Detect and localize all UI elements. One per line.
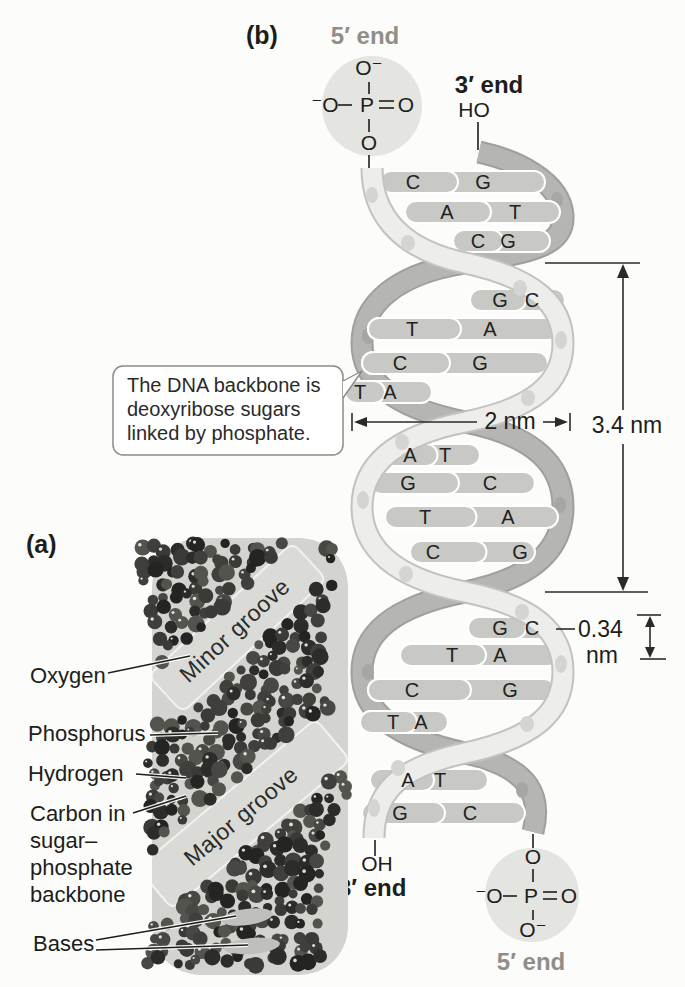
carbon-label-line4: backbone: [30, 882, 125, 907]
base-pair-row: [360, 711, 448, 733]
oxygen-atom: O: [525, 845, 541, 868]
carbon-label-line2: sugar–: [30, 828, 98, 853]
dimension-0-34nm-value: 0.34: [578, 616, 623, 642]
base-letter-left: C: [406, 171, 420, 193]
bases-label: Bases: [33, 931, 94, 956]
callout-line-1: The DNA backbone is: [127, 374, 320, 396]
base-letter-left: G: [400, 472, 416, 494]
base-letter-right: C: [525, 617, 539, 639]
phosphorus-label: Phosphorus: [28, 721, 145, 746]
base-letter-right: G: [502, 679, 518, 701]
base-pair-row: [368, 318, 560, 340]
base-letter-right: T: [439, 444, 451, 466]
base-letter-left: C: [471, 230, 485, 252]
base-letter-right: A: [493, 644, 507, 666]
base-letter-right: C: [463, 802, 477, 824]
oxygen-atom: O⁻: [519, 918, 546, 941]
base-letter-left: T: [354, 381, 366, 403]
base-pair-row: [400, 644, 560, 666]
base-letter-left: C: [426, 541, 440, 563]
base-pair-row: [380, 171, 545, 193]
textbook-dna-figure: (b) 5′ end O⁻ ⁻O P O O 3′ end HO: [0, 0, 685, 987]
base-pair-row: [370, 472, 535, 494]
bottom-five-prime-label: 5′ end: [497, 948, 565, 975]
base-letter-right: C: [483, 472, 497, 494]
oxygen-atom: O⁻: [355, 56, 382, 79]
base-letter-right: G: [472, 352, 488, 374]
dimension-3-4nm-label: 3.4 nm: [592, 412, 662, 438]
base-letter-left: A: [401, 769, 415, 791]
base-letter-left: G: [492, 617, 508, 639]
base-pair-row: [405, 201, 560, 223]
base-letter-left: C: [393, 352, 407, 374]
top-three-prime-label: 3′ end: [455, 71, 523, 98]
base-letter-left: G: [392, 802, 408, 824]
base-letter-left: T: [387, 711, 399, 733]
phosphorus-atom: P: [524, 884, 538, 907]
hydroxyl-label: HO: [458, 98, 490, 121]
panel-a-label: (a): [26, 530, 57, 558]
hydrogen-label: Hydrogen: [28, 761, 123, 786]
base-letter-left: G: [492, 289, 508, 311]
bottom-oh-label: OH: [361, 852, 393, 875]
callout-line-3: linked by phosphate.: [127, 422, 310, 444]
backbone-callout: The DNA backbone is deoxyribose sugars l…: [113, 366, 362, 455]
base-letter-right: A: [383, 381, 397, 403]
base-letter-right: C: [525, 289, 539, 311]
base-pair-row: [362, 352, 548, 374]
base-letter-right: T: [434, 769, 446, 791]
oxygen-atom: O: [561, 884, 577, 907]
base-letter-left: C: [405, 679, 419, 701]
bottom-three-prime-label: 3′ end: [338, 874, 406, 901]
oxygen-atom: O: [361, 131, 377, 154]
panel-b-label: (b): [246, 21, 278, 49]
base-letter-right: A: [501, 506, 515, 528]
callout-line-2: deoxyribose sugars: [127, 398, 300, 420]
base-pair-row: [368, 679, 555, 701]
base-letter-right: T: [509, 201, 521, 223]
oxygen-atom: ⁻O: [311, 93, 338, 116]
base-pair-row: [385, 506, 558, 528]
oxygen-atom: O: [398, 93, 414, 116]
dimension-0-34nm-unit: nm: [586, 642, 618, 668]
base-letter-right: G: [475, 171, 491, 193]
top-five-prime-label: 5′ end: [331, 22, 399, 49]
base-letter-left: T: [419, 506, 431, 528]
base-letter-left: A: [440, 201, 454, 223]
figure-canvas: (b) 5′ end O⁻ ⁻O P O O 3′ end HO: [0, 0, 685, 987]
dimension-2nm-label: 2 nm: [484, 408, 535, 434]
oxygen-label: Oxygen: [30, 663, 106, 688]
carbon-label-line3: phosphate: [30, 855, 133, 880]
oxygen-atom: ⁻O: [475, 884, 502, 907]
base-letter-right: A: [414, 711, 428, 733]
carbon-label-line1: Carbon in: [30, 801, 125, 826]
base-letter-right: G: [512, 541, 528, 563]
phosphorus-atom: P: [360, 93, 374, 116]
base-letter-right: A: [483, 318, 497, 340]
base-letter-left: T: [406, 318, 418, 340]
base-letter-right: G: [500, 230, 516, 252]
base-letter-left: T: [446, 644, 458, 666]
base-letter-left: A: [403, 444, 417, 466]
